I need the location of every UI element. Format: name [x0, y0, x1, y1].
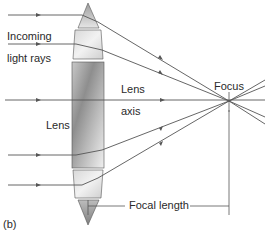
arrow-icon — [36, 98, 41, 102]
arrow-icon — [36, 183, 41, 187]
arrow-icon — [36, 13, 41, 17]
panel-label: (b) — [3, 218, 16, 231]
convex-lens — [72, 3, 104, 225]
focus-label: Focus — [214, 80, 244, 93]
arrow-icon — [160, 98, 165, 102]
lens-bottom-prism — [78, 200, 99, 225]
incoming-rays-label-line1: Incoming — [7, 30, 52, 43]
incoming-rays-label-line2: light rays — [7, 52, 51, 65]
arrow-icon — [36, 153, 41, 157]
lens-top-prism — [78, 3, 99, 28]
lens-axis-label-line1: Lens — [121, 83, 145, 96]
lens-center-block — [72, 62, 104, 168]
arrow-icon — [159, 126, 163, 131]
arrow-icon — [158, 70, 163, 75]
lens-axis-label-line2: axis — [121, 105, 141, 118]
focal-length-label: Focal length — [129, 199, 189, 212]
lens-label: Lens — [46, 119, 70, 132]
lens-lower-segment — [73, 170, 103, 198]
